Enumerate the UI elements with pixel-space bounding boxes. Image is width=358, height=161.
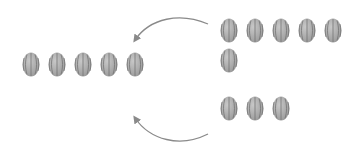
arrows-layer <box>0 0 358 161</box>
bottom-arrow-icon <box>135 118 208 141</box>
top-arrow-icon <box>135 18 208 40</box>
